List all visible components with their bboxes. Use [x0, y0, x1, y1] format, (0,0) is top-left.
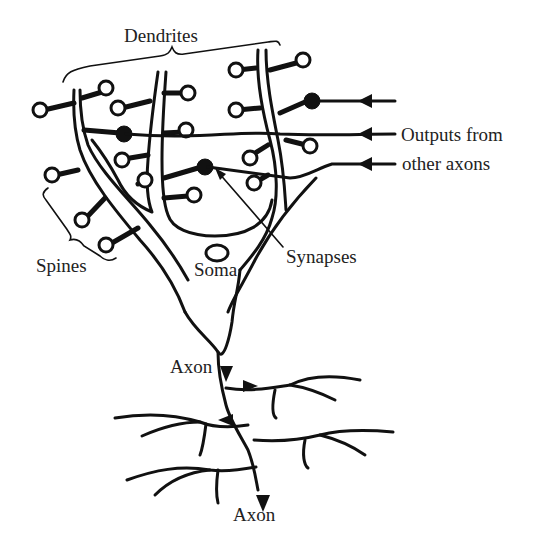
- label-dendrites: Dendrites: [124, 25, 198, 46]
- label-axon-upper: Axon: [170, 356, 213, 377]
- label-synapses: Synapses: [286, 246, 357, 267]
- dendrites-brace: [63, 41, 280, 82]
- label-outputs-line1: Outputs from: [401, 124, 503, 145]
- label-outputs-line2: other axons: [402, 153, 490, 174]
- neuron-diagram: Dendrites Outputs from other axons Spine…: [0, 0, 543, 536]
- axon-collaterals: [115, 377, 393, 503]
- label-axon-lower: Axon: [233, 504, 276, 525]
- soma-body: [185, 270, 240, 354]
- label-soma: Soma: [194, 259, 238, 280]
- dendrite-left: [74, 90, 188, 312]
- label-spines: Spines: [36, 255, 87, 276]
